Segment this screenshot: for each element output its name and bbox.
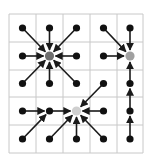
arrow-edge	[81, 115, 104, 139]
node-dot	[100, 135, 107, 142]
arrow-edge	[81, 84, 104, 107]
flow-grid-diagram	[0, 0, 151, 158]
node-dot	[46, 24, 53, 31]
node-dot	[19, 107, 26, 114]
arrow-edge	[54, 28, 77, 52]
hub-b-node	[125, 51, 134, 60]
node-dot	[126, 135, 133, 142]
hub-c-node	[72, 106, 81, 115]
arrow-edge	[23, 60, 46, 83]
node-dot	[19, 24, 26, 31]
node-dot	[73, 52, 80, 59]
arrow-edge	[104, 28, 126, 52]
node-dot	[126, 24, 133, 31]
node-dot	[100, 52, 107, 59]
node-dot	[73, 80, 80, 87]
arrow-edge	[50, 115, 73, 139]
arrow-edge	[54, 60, 77, 83]
node-dot	[19, 52, 26, 59]
node-dot	[19, 80, 26, 87]
hub-a-node	[45, 51, 54, 60]
node-dot	[73, 135, 80, 142]
node-dot	[46, 135, 53, 142]
arrow-edge	[23, 28, 46, 52]
arrow-edge	[23, 115, 47, 139]
node-dot	[126, 80, 133, 87]
node-dot	[46, 107, 53, 114]
node-dot	[19, 135, 26, 142]
node-dot	[100, 24, 107, 31]
node-dot	[46, 80, 53, 87]
node-dot	[73, 24, 80, 31]
node-dot	[100, 80, 107, 87]
node-dot	[100, 107, 107, 114]
node-dot	[126, 107, 133, 114]
